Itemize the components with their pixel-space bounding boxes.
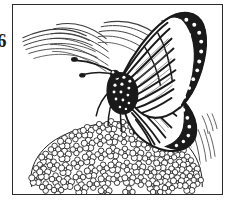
antenna-club-upper xyxy=(71,57,78,62)
illustration-frame xyxy=(12,4,223,195)
page-canvas: 6 xyxy=(0,0,230,203)
antenna-club-lower xyxy=(79,73,85,78)
butterfly-head xyxy=(110,70,119,78)
page-number: 6 xyxy=(0,30,9,52)
monarch-butterfly-illustration xyxy=(13,5,222,194)
